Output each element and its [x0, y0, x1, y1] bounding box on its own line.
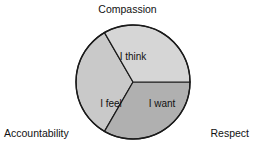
external-label-accountability: Accountability — [4, 127, 69, 139]
diagram-canvas: I think I feel I want Compassion Account… — [0, 0, 255, 163]
segment-label-i-want: I want — [149, 98, 176, 109]
external-label-compassion: Compassion — [0, 3, 255, 15]
segment-label-i-think: I think — [120, 51, 148, 62]
external-label-respect: Respect — [210, 127, 249, 139]
segment-label-i-feel: I feel — [100, 98, 122, 109]
